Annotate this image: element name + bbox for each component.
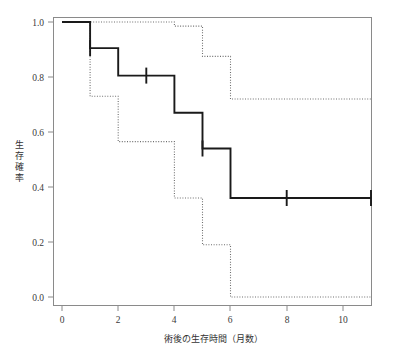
survival-plot-figure: 1.0 0.8 0.6 0.4 0.2 0.0 0 2 4 6 8 10 [0, 0, 396, 357]
x-tick-label: 10 [338, 315, 348, 325]
x-tick-label: 6 [228, 315, 233, 325]
y-tick-label: 0.2 [32, 238, 44, 248]
y-axis-title-char: 率 [15, 172, 24, 183]
x-axis-title: 術後の生存時間（月数） [164, 333, 263, 344]
y-tick-label: 0.8 [32, 73, 44, 83]
y-tick-label: 0.4 [32, 183, 44, 193]
chart-background [0, 0, 396, 357]
x-tick-label: 0 [60, 315, 65, 325]
kaplan-meier-chart: 1.0 0.8 0.6 0.4 0.2 0.0 0 2 4 6 8 10 [0, 0, 396, 357]
x-tick-label: 4 [172, 315, 177, 325]
x-tick-label: 8 [285, 315, 290, 325]
x-tick-label: 2 [116, 315, 121, 325]
y-tick-label: 0.6 [32, 128, 44, 138]
y-axis-title-char: 生 [15, 139, 24, 150]
y-tick-label: 0.0 [32, 293, 44, 303]
y-axis-title-char: 存 [15, 150, 24, 161]
y-tick-label: 1.0 [32, 18, 44, 28]
y-axis-title-char: 確 [15, 161, 24, 172]
